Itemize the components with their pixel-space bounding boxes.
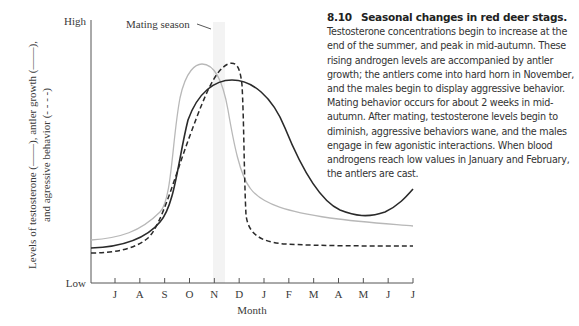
x-tick-label: S: [162, 288, 168, 300]
mating-season-label: Mating season: [126, 18, 190, 30]
figure-caption: 8.10Seasonal changes in red deer stags. …: [327, 10, 577, 181]
x-tick-labels: JASONDJFMAMJJ: [113, 288, 416, 300]
x-tick-label: M: [358, 288, 368, 300]
x-tick-label: D: [235, 288, 243, 300]
x-tick-label: A: [136, 288, 144, 300]
x-tick-label: M: [309, 288, 319, 300]
x-tick-label: J: [411, 288, 416, 300]
x-tick-label: O: [186, 288, 194, 300]
x-tick-label: J: [113, 288, 118, 300]
caption-body: Testosterone concentrations begin to inc…: [327, 26, 574, 179]
x-ticks: [115, 278, 413, 283]
y-axis-title-line1: Levels of testosterone (——), antler grow…: [26, 41, 39, 269]
x-tick-label: F: [286, 288, 292, 300]
x-tick-label: J: [262, 288, 267, 300]
mating-season-pointer: [197, 24, 211, 29]
y-low-label: Low: [66, 277, 86, 289]
figure-number: 8.10: [327, 11, 352, 23]
mating-season-band: [213, 22, 225, 283]
figure: High Low Levels of testosterone (——), an…: [0, 0, 579, 326]
x-tick-label: N: [210, 288, 218, 300]
x-axis-title: Month: [237, 304, 267, 316]
y-axis-title-line2: and agressive behavior (- - - -): [40, 88, 53, 222]
figure-title: Seasonal changes in red deer stags.: [361, 11, 567, 23]
y-high-label: High: [64, 15, 87, 27]
x-tick-label: J: [386, 288, 391, 300]
x-tick-label: A: [335, 288, 343, 300]
